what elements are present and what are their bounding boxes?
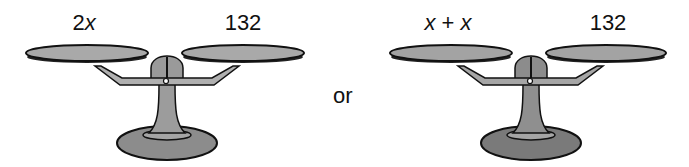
left-pan xyxy=(26,45,148,61)
right-pan-label: 132 xyxy=(590,12,627,34)
scale-pivot xyxy=(528,79,533,84)
balance-scale-1: 2x 132 xyxy=(0,0,345,167)
balance-scale-illustration xyxy=(344,0,689,167)
left-pan-label: 2x xyxy=(72,12,95,34)
scale-column xyxy=(513,84,549,133)
balance-scale-2: x + x + x 132 xyxy=(344,0,689,167)
balance-scale-illustration xyxy=(0,0,345,167)
right-pan xyxy=(546,45,666,61)
right-pan xyxy=(182,45,304,61)
scale-column xyxy=(149,84,185,133)
right-pan-label: 132 xyxy=(225,12,262,34)
plus-x-term: + x + x xyxy=(435,10,471,35)
scale-pivot xyxy=(164,79,169,84)
left-pan xyxy=(390,45,512,61)
left-pan-label: x + x + x xyxy=(424,12,471,34)
